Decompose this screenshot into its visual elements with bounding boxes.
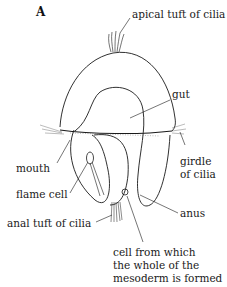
label-girdle-1: girdle — [180, 155, 211, 167]
label-mesoderm-1: cell from which — [113, 246, 195, 258]
label-girdle-2: of cilia — [180, 168, 216, 180]
diagram-canvas: A — [0, 0, 227, 287]
label-anal-tuft: anal tuft of cilia — [7, 217, 91, 229]
label-mesoderm-2: the whole of the — [113, 259, 199, 271]
label-anus: anus — [180, 207, 205, 219]
label-mouth: mouth — [16, 162, 50, 174]
label-mesoderm-3: mesoderm is formed — [113, 272, 222, 284]
label-gut: gut — [172, 88, 190, 100]
apical-tuft-icon — [109, 31, 124, 52]
hyposphere-outline — [71, 130, 110, 203]
episphere-outline — [60, 52, 175, 131]
label-apical-tuft: apical tuft of cilia — [132, 8, 225, 20]
larva-drawing — [0, 0, 227, 287]
gut-outline — [75, 87, 170, 206]
girdle-line — [60, 130, 172, 134]
label-flame-cell: flame cell — [16, 188, 68, 200]
